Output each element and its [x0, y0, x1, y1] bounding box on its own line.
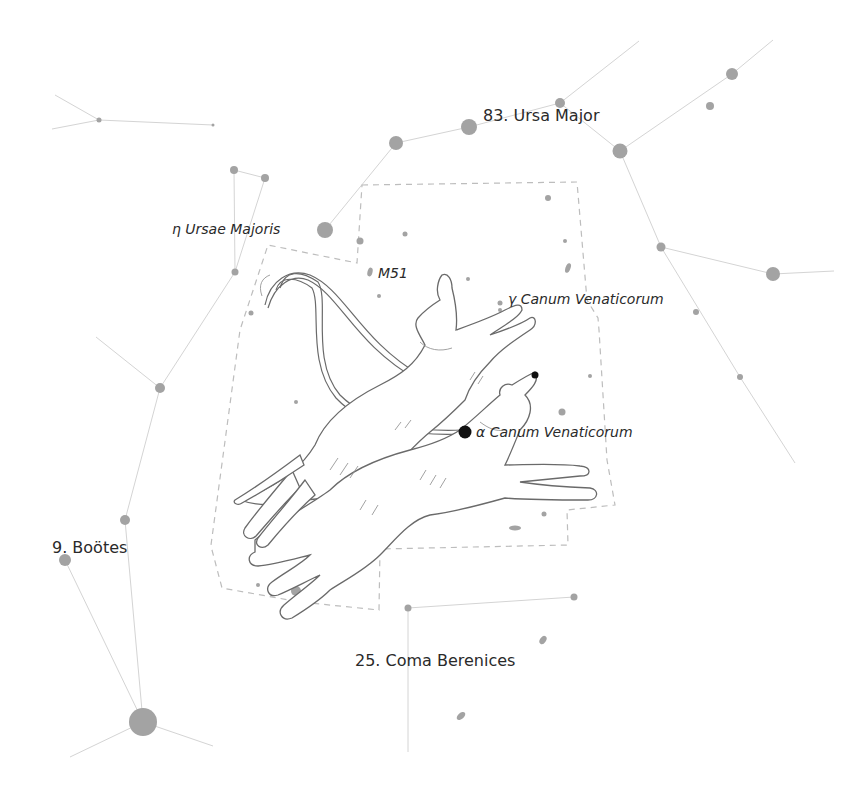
label-gamma-cvn: γ Canum Venaticorum	[508, 291, 664, 307]
label-eta-ursae-majoris: η Ursae Majoris	[172, 221, 280, 237]
beta-cvn-star	[532, 372, 539, 379]
hunting-dogs-illustration	[234, 273, 596, 619]
star-map: 83. Ursa Major 9. Boötes 25. Coma Bereni…	[0, 0, 867, 803]
label-ursa-major: 83. Ursa Major	[483, 106, 600, 125]
label-alpha-cvn: α Canum Venaticorum	[476, 424, 633, 440]
alpha-cvn-star	[459, 426, 472, 439]
label-bootes: 9. Boötes	[52, 538, 127, 557]
label-m51: M51	[378, 265, 408, 281]
label-coma-berenices: 25. Coma Berenices	[355, 651, 515, 670]
